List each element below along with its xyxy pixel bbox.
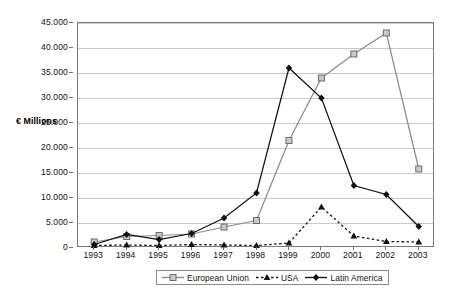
- plot-area: [77, 22, 434, 247]
- data-point-open-square: [170, 275, 176, 281]
- x-axis-tick-label: 1998: [246, 250, 266, 260]
- series-line: [94, 207, 419, 246]
- x-axis-tick-mark: [126, 247, 127, 250]
- y-axis-tick-label: 45.000: [41, 17, 68, 27]
- data-point-triangle: [415, 238, 422, 244]
- y-axis-tick-mark: [69, 72, 73, 73]
- x-axis-tick-label: 2002: [376, 250, 396, 260]
- y-axis-tick-mark: [69, 47, 73, 48]
- x-axis-tick-label: 2001: [343, 250, 363, 260]
- data-point-open-square: [221, 224, 227, 230]
- y-axis-tick-mark: [69, 147, 73, 148]
- y-axis-tick-label: 10.000: [41, 192, 68, 202]
- x-axis-tick-label: 1994: [116, 250, 136, 260]
- x-axis-tick-mark: [191, 247, 192, 250]
- y-axis-tick-label: 15.000: [41, 167, 68, 177]
- x-axis-tick-mark: [158, 247, 159, 250]
- data-point-diamond: [313, 274, 319, 281]
- x-axis-tick-label: 1997: [213, 250, 233, 260]
- series-european-union: [91, 30, 422, 245]
- y-axis-tick-label: 5.000: [46, 217, 68, 227]
- y-axis-tick-mark: [69, 172, 73, 173]
- x-axis-tick-mark: [288, 247, 289, 250]
- legend-label: European Union: [187, 273, 249, 283]
- data-point-open-square: [286, 138, 292, 144]
- y-axis-tick-label: 20.000: [41, 142, 68, 152]
- x-axis-tick-label: 1993: [83, 250, 103, 260]
- y-axis-tick-mark: [69, 97, 73, 98]
- x-axis-tick-mark: [385, 247, 386, 250]
- y-axis-tick-label: 40.000: [41, 42, 68, 52]
- data-point-open-square: [383, 30, 389, 36]
- x-axis: 1993199419951996199719981999200020012002…: [77, 250, 434, 266]
- data-point-open-square: [318, 75, 324, 81]
- data-point-diamond: [351, 182, 357, 189]
- y-axis-title: € Millions: [16, 116, 57, 126]
- legend-label: Latin America: [330, 273, 382, 283]
- x-axis-tick-label: 1996: [181, 250, 201, 260]
- data-point-triangle: [264, 274, 271, 280]
- legend-item-european-union[interactable]: European Union: [162, 272, 249, 283]
- legend-marker-open-square-icon: [162, 272, 184, 283]
- series-usa: [91, 203, 422, 248]
- legend-item-latin-america[interactable]: Latin America: [305, 272, 382, 283]
- x-axis-tick-mark: [93, 247, 94, 250]
- x-axis-tick-label: 1999: [278, 250, 298, 260]
- x-axis-tick-mark: [418, 247, 419, 250]
- y-axis-tick-mark: [69, 247, 73, 248]
- legend-item-usa[interactable]: USA: [256, 272, 299, 283]
- y-axis-tick-mark: [69, 22, 73, 23]
- x-axis-tick-label: 1995: [148, 250, 168, 260]
- data-point-triangle: [253, 242, 260, 248]
- y-axis-tick-label: 35.000: [41, 67, 68, 77]
- y-axis-tick-label: 0: [63, 242, 68, 252]
- x-axis-tick-mark: [320, 247, 321, 250]
- data-point-triangle: [286, 239, 293, 245]
- data-point-open-square: [254, 218, 260, 224]
- chart-legend: European UnionUSALatin America: [156, 270, 389, 285]
- x-axis-tick-mark: [353, 247, 354, 250]
- y-axis-tick-mark: [69, 122, 73, 123]
- series-line: [94, 33, 419, 242]
- y-axis-tick-mark: [69, 222, 73, 223]
- line-chart: 05.00010.00015.00020.00025.00030.00035.0…: [0, 0, 454, 294]
- data-point-open-square: [416, 166, 422, 172]
- y-axis: 05.00010.00015.00020.00025.00030.00035.0…: [0, 0, 77, 294]
- x-axis-tick-mark: [223, 247, 224, 250]
- legend-marker-diamond-icon: [305, 272, 327, 283]
- legend-label: USA: [281, 273, 299, 283]
- data-point-triangle: [350, 232, 357, 238]
- data-point-open-square: [351, 51, 357, 57]
- y-axis-tick-label: 30.000: [41, 92, 68, 102]
- legend-marker-triangle-icon: [256, 272, 278, 283]
- data-point-triangle: [318, 203, 325, 209]
- series-layer: [78, 23, 435, 248]
- x-axis-tick-label: 2000: [311, 250, 331, 260]
- x-axis-tick-mark: [256, 247, 257, 250]
- x-axis-tick-label: 2003: [408, 250, 428, 260]
- y-axis-tick-mark: [69, 197, 73, 198]
